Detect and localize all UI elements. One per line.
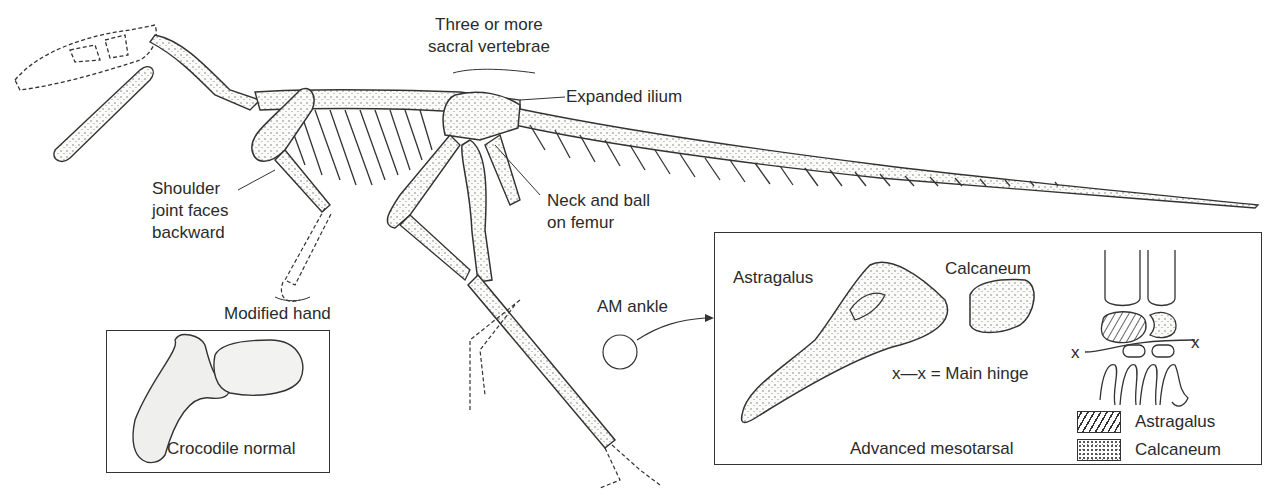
- legend-swatch-hatched: [1077, 411, 1121, 433]
- dinosaur-skeleton-figure: Three or more sacral vertebrae Expanded …: [0, 0, 1284, 495]
- pubis: [387, 135, 460, 228]
- shoulder-label-line1: Shoulder: [152, 178, 229, 200]
- ankle-arrow: [637, 318, 705, 340]
- ischium: [485, 135, 520, 205]
- sacral-label-line1: Three or more: [428, 14, 550, 36]
- ilium: [443, 92, 520, 140]
- neck: [150, 35, 260, 110]
- shoulder-label-line3: backward: [152, 222, 229, 244]
- tibia: [468, 275, 615, 448]
- femur-label-line2: on femur: [547, 212, 650, 234]
- knee-back-leg: [400, 215, 470, 280]
- expanded-ilium-label: Expanded ilium: [566, 86, 682, 108]
- sacral-vertebrae-label: Three or more sacral vertebrae: [428, 14, 550, 58]
- femur-label-line1: Neck and ball: [547, 190, 650, 212]
- shoulder-joint-label: Shoulder joint faces backward: [152, 178, 229, 244]
- legend-label-calcaneum: Calcaneum: [1135, 439, 1221, 461]
- calcaneum-label: Calcaneum: [945, 258, 1031, 280]
- hinge-marker-left: x: [1071, 342, 1080, 364]
- crocodile-normal-caption: Crocodile normal: [167, 438, 296, 460]
- femur-label: Neck and ball on femur: [547, 190, 650, 234]
- ankle-highlight-circle: [603, 335, 637, 369]
- sacral-label-line2: sacral vertebrae: [428, 36, 550, 58]
- hinge-marker-right: x: [1191, 332, 1200, 354]
- femur: [462, 140, 492, 282]
- forearm: [281, 208, 332, 301]
- shoulder-label-line2: joint faces: [152, 200, 229, 222]
- ribs: [285, 110, 432, 185]
- legend-label-astragalus: Astragalus: [1135, 411, 1215, 433]
- advanced-mesotarsal-title: Advanced mesotarsal: [850, 438, 1013, 460]
- astragalus-label: Astragalus: [733, 267, 813, 289]
- main-hinge-label: x—x = Main hinge: [892, 363, 1029, 385]
- crocodile-normal-inset: Crocodile normal: [106, 330, 330, 473]
- am-ankle-label: AM ankle: [597, 296, 668, 318]
- advanced-mesotarsal-inset: Astragalus Calcaneum x—x = Main hinge x …: [714, 232, 1262, 465]
- legend-swatch-stippled: [1077, 439, 1121, 461]
- modified-hand-label: Modified hand: [224, 303, 331, 325]
